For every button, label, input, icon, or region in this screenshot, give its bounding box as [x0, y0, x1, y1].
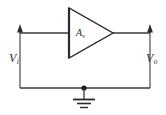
input-arrowhead-up-icon [17, 24, 23, 33]
output-voltage-subscript: o [154, 57, 158, 66]
output-voltage-symbol: V [146, 51, 153, 65]
input-voltage-subscript: i [17, 57, 19, 66]
voltage-amplifier-circuit-diagram: Vi Vo Av [0, 0, 166, 115]
amplifier-gain-label: Av [76, 28, 85, 38]
output-arrowhead-up-icon [147, 24, 153, 33]
circuit-schematic-canvas [0, 0, 166, 115]
input-voltage-label: Vi [9, 52, 18, 64]
ground-symbol-icon [73, 88, 95, 108]
gain-subscript: v [82, 32, 85, 39]
output-voltage-label: Vo [146, 52, 157, 64]
input-voltage-symbol: V [9, 51, 16, 65]
